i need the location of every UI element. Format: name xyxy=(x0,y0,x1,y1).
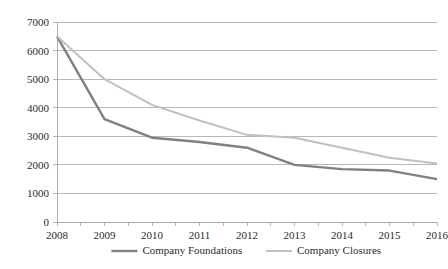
legend-label-1: Company Closures xyxy=(297,244,381,256)
y-tick-label: 0 xyxy=(44,216,50,228)
x-tick-label: 2009 xyxy=(94,229,117,241)
x-tick-label: 2008 xyxy=(46,229,69,241)
x-tick-label: 2012 xyxy=(236,229,258,241)
x-axis-tick-labels: 200820092010201120122013201420152016 xyxy=(46,229,448,241)
x-tick-label: 2014 xyxy=(331,229,354,241)
x-tick-label: 2011 xyxy=(189,229,211,241)
y-tick-label: 7000 xyxy=(27,16,50,28)
y-tick-label: 2000 xyxy=(27,159,50,171)
chart-legend: Company FoundationsCompany Closures xyxy=(111,244,381,256)
chart-canvas: 01000200030004000500060007000 2008200920… xyxy=(0,0,448,269)
x-tick-label: 2013 xyxy=(284,229,307,241)
legend-label-0: Company Foundations xyxy=(142,244,242,256)
y-tick-label: 4000 xyxy=(27,102,50,114)
x-axis-tickmarks xyxy=(57,222,437,226)
line-chart: 01000200030004000500060007000 2008200920… xyxy=(0,0,448,269)
y-tick-label: 1000 xyxy=(27,187,50,199)
x-tick-label: 2015 xyxy=(379,229,402,241)
y-axis-tick-labels: 01000200030004000500060007000 xyxy=(27,16,50,228)
y-tick-label: 5000 xyxy=(27,73,50,85)
y-tick-label: 3000 xyxy=(27,130,50,142)
x-tick-label: 2016 xyxy=(426,229,448,241)
x-tick-label: 2010 xyxy=(141,229,164,241)
y-tick-label: 6000 xyxy=(27,45,50,57)
